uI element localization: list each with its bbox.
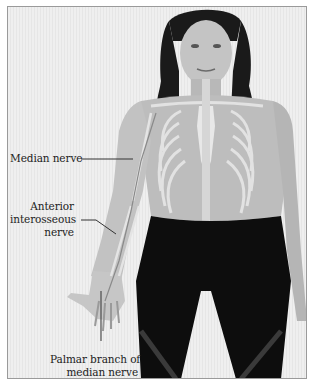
label-anterior-interosseous-nerve: Anterior interosseous nerve	[10, 200, 74, 239]
label-palmar-branch: Palmar branch of median nerve	[50, 353, 138, 379]
face	[180, 20, 232, 86]
figure-frame	[7, 6, 307, 379]
spine	[202, 79, 210, 224]
label-median-nerve: Median nerve	[10, 152, 74, 165]
anatomy-illustration	[8, 7, 307, 379]
